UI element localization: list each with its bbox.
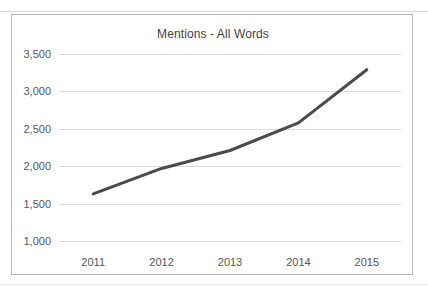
- y-axis-tick-label: 2,000: [23, 160, 51, 172]
- y-axis-tick-label: 1,500: [23, 198, 51, 210]
- x-axis-tick-label: 2014: [286, 256, 310, 268]
- scan-artifact-bottom-edge: [0, 284, 428, 285]
- x-axis-tick-label: 2015: [355, 256, 379, 268]
- y-axis-tick-label: 1,000: [23, 235, 51, 247]
- x-axis-tick-label: 2013: [218, 256, 242, 268]
- y-axis-tick-label: 3,500: [23, 48, 51, 60]
- x-axis-tick-label: 2012: [149, 256, 173, 268]
- x-axis-tick-label: 2011: [81, 256, 105, 268]
- line-series-chart: [59, 54, 401, 241]
- chart-title: Mentions - All Words: [12, 27, 414, 41]
- y-axis-tick-label: 3,000: [23, 85, 51, 97]
- scan-artifact-top-edge: [0, 11, 428, 12]
- series-line-mentions-all-words: [93, 70, 367, 194]
- gridline: [59, 241, 401, 242]
- chart-frame: Mentions - All Words 1,0001,5002,0002,50…: [11, 14, 413, 275]
- plot-area: 1,0001,5002,0002,5003,0003,500 201120122…: [59, 54, 401, 241]
- y-axis-tick-label: 2,500: [23, 123, 51, 135]
